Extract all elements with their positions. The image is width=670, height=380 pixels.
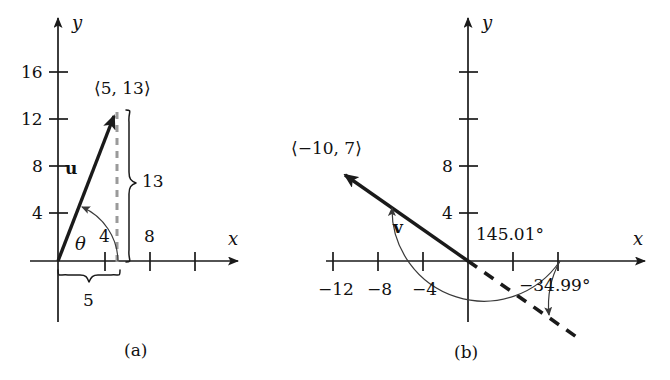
figure-graphics: [0, 0, 670, 380]
panel-b-angle-label-positive: 145.01°: [476, 226, 544, 243]
panel-a-y-axis-label: y: [72, 14, 82, 32]
panel-b-opposite-dashed-ray: [468, 261, 578, 338]
panel-b-vector-component-label: ⟨−10, 7⟩: [291, 140, 362, 157]
vector-figure: y x 16 12 8 4 4 8 ⟨5, 13⟩ u θ 13 5 (a) y…: [0, 0, 670, 380]
panel-a-brace-horizontal: [58, 270, 120, 282]
panel-a-brace-label-5: 5: [83, 292, 94, 309]
panel-a-ytick-label-12: 12: [21, 111, 43, 128]
panel-a-caption: (a): [124, 342, 147, 359]
panel-b-ytick-label-8: 8: [442, 158, 453, 175]
panel-a-ytick-label-16: 16: [21, 64, 43, 81]
panel-a-xtick-label-8: 8: [144, 228, 155, 245]
panel-a-xtick-label-4: 4: [99, 228, 110, 245]
panel-b-ytick-label-4: 4: [442, 205, 453, 222]
panel-a-x-axis-label: x: [228, 230, 238, 248]
panel-b-y-axis-label: y: [482, 14, 492, 32]
panel-b-xtick-label-neg8: −8: [367, 281, 392, 298]
panel-a-vector-component-label: ⟨5, 13⟩: [94, 80, 151, 97]
panel-b-x-axis-label: x: [633, 230, 643, 248]
panel-a-theta-label: θ: [75, 235, 86, 253]
panel-b-xtick-label-neg4: −4: [412, 281, 437, 298]
panel-b-xtick-label-neg12: −12: [318, 281, 354, 298]
panel-a-ytick-label-8: 8: [32, 158, 43, 175]
panel-b-caption: (b): [454, 344, 478, 361]
panel-a-brace-vertical: [126, 110, 136, 262]
panel-a-ytick-label-4: 4: [32, 205, 43, 222]
panel-a-brace-label-13: 13: [142, 173, 164, 190]
panel-b-vector-name-v: v: [393, 219, 403, 236]
panel-b-angle-label-negative: −34.99°: [519, 277, 590, 294]
panel-a-vector-name-u: u: [65, 160, 77, 177]
panel-a-graphics: [30, 18, 238, 322]
